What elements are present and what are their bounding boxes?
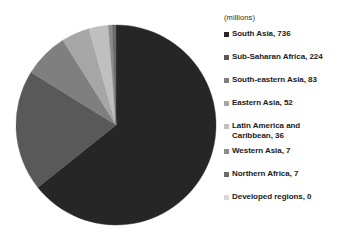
legend-swatch-icon [224,55,229,60]
legend-item[interactable]: Sub-Saharan Africa, 224 [224,52,356,75]
legend-swatch-icon [224,78,229,83]
chart-legend: (millions) South Asia, 736Sub-Saharan Af… [222,0,356,250]
pie-plot-area [0,0,222,250]
legend-item-list: South Asia, 736Sub-Saharan Africa, 224So… [222,29,356,215]
legend-item-label: Eastern Asia, 52 [232,98,293,108]
legend-item-label: Developed regions, 0 [232,192,311,202]
legend-swatch-icon [224,149,229,154]
pie-svg [0,0,222,250]
legend-item[interactable]: South Asia, 736 [224,29,356,52]
legend-item-label: Sub-Saharan Africa, 224 [232,52,323,62]
legend-item-label: Northern Africa, 7 [232,169,298,179]
legend-item[interactable]: Western Asia, 7 [224,146,356,169]
legend-swatch-icon [224,172,229,177]
legend-item-label: Western Asia, 7 [232,146,290,156]
legend-swatch-icon [224,101,229,106]
legend-item[interactable]: South-eastern Asia, 83 [224,75,356,98]
legend-swatch-icon [224,124,229,129]
legend-item[interactable]: Developed regions, 0 [224,192,356,215]
pie-chart-figure: (millions) South Asia, 736Sub-Saharan Af… [0,0,356,250]
legend-item-label: South-eastern Asia, 83 [232,75,317,85]
legend-item[interactable]: Northern Africa, 7 [224,169,356,192]
legend-item[interactable]: Latin America and Caribbean, 36 [224,121,356,146]
legend-item[interactable]: Eastern Asia, 52 [224,98,356,121]
legend-units-label: (millions) [224,13,356,22]
legend-swatch-icon [224,32,229,37]
legend-item-label: Latin America and Caribbean, 36 [232,121,300,141]
legend-item-label: South Asia, 736 [232,29,291,39]
legend-swatch-icon [224,195,229,200]
